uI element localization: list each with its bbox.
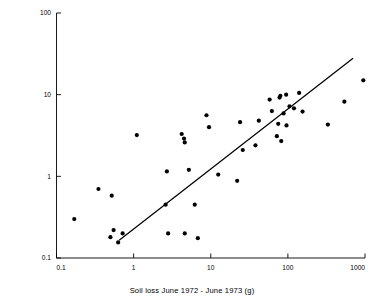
data-point [270, 109, 274, 113]
data-point [187, 168, 191, 172]
x-tick-label-2: 10 [207, 264, 215, 271]
data-point [166, 231, 170, 235]
data-point [278, 94, 282, 98]
data-point [135, 133, 139, 137]
data-point [287, 104, 291, 108]
data-point [235, 179, 239, 183]
data-point [284, 123, 288, 127]
data-point [183, 140, 187, 144]
data-point [326, 123, 330, 127]
x-tick-label-3: 100 [282, 264, 293, 271]
data-point [275, 134, 279, 138]
data-point [207, 125, 211, 129]
data-point [193, 203, 197, 207]
data-point [297, 91, 301, 95]
x-tick-label-0: 0.1 [57, 264, 66, 271]
data-point [279, 139, 283, 143]
data-point [112, 228, 116, 232]
data-point [164, 203, 168, 207]
x-tick-label-1: 1 [132, 264, 136, 271]
x-tick-label-4: 1000 [350, 264, 365, 271]
data-point [182, 136, 186, 140]
data-point [241, 148, 245, 152]
data-point [276, 122, 280, 126]
data-point [268, 98, 272, 102]
data-point [116, 240, 120, 244]
x-axis-title: Soil loss June 1972 - June 1973 (g) [0, 286, 384, 295]
plot-canvas: 0.111010010000.1110100 [0, 0, 384, 301]
data-point [342, 100, 346, 104]
data-point [183, 231, 187, 235]
scatter-plot-figure: 0.111010010000.1110100 Bare soil % x sin… [0, 0, 384, 301]
data-point [253, 143, 257, 147]
data-point [292, 106, 296, 110]
data-point [196, 236, 200, 240]
y-tick-label-3: 100 [40, 9, 51, 16]
data-point [284, 93, 288, 97]
data-point [204, 113, 208, 117]
data-point [110, 194, 114, 198]
data-point [281, 111, 285, 115]
data-point [96, 187, 100, 191]
y-tick-label-2: 10 [44, 91, 52, 98]
data-point [72, 217, 76, 221]
data-point [216, 173, 220, 177]
data-point [300, 110, 304, 114]
data-point [165, 169, 169, 173]
data-point [108, 235, 112, 239]
data-point [121, 231, 125, 235]
data-point [238, 120, 242, 124]
data-point [180, 132, 184, 136]
y-tick-label-0: 0.1 [42, 254, 51, 261]
data-point [361, 78, 365, 82]
y-tick-label-1: 1 [47, 173, 51, 180]
data-point [257, 119, 261, 123]
regression-line [119, 58, 353, 240]
